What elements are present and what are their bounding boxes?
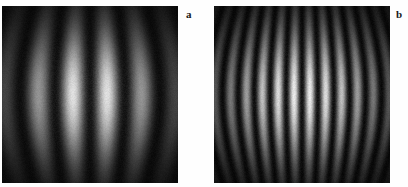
interference-panel-a <box>2 6 178 183</box>
panel-label-a: a <box>186 9 192 20</box>
figure-root: a b <box>0 0 408 187</box>
panel-label-b: b <box>396 9 402 20</box>
interference-pattern-b-canvas <box>214 6 390 183</box>
interference-panel-b <box>214 6 390 183</box>
interference-pattern-a-canvas <box>2 6 178 183</box>
